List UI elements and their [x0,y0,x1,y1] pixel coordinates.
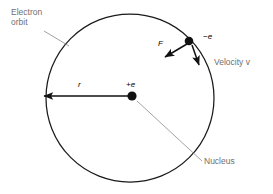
force-arrow [165,44,187,57]
force-label: F [158,39,163,48]
electron-charge-label: −e [203,32,212,41]
nucleus-leader-line [137,101,202,161]
nucleus-point [127,91,136,100]
bohr-atom-diagram: Electron orbit Nucleus Velocity v −e +e … [0,0,273,194]
electron-orbit-leader-line [44,31,69,46]
nucleus-label: Nucleus [204,157,235,167]
radius-label: r [78,80,81,89]
nucleus-charge-label: +e [126,80,135,89]
velocity-label: Velocity v [214,58,250,68]
electron-orbit-label: Electron orbit [11,8,42,28]
electron-point [185,37,194,46]
